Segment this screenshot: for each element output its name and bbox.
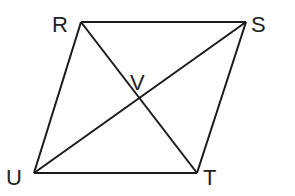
vertex-label-u: U (6, 165, 22, 190)
intersection-label-v: V (130, 70, 145, 95)
vertex-label-r: R (52, 12, 68, 37)
vertex-label-s: S (251, 12, 266, 37)
vertex-label-t: T (203, 165, 216, 190)
side-st (197, 22, 246, 173)
side-ur (34, 22, 81, 173)
parallelogram-diagram: R S T U V (0, 0, 295, 196)
diagonal-us (34, 22, 246, 173)
